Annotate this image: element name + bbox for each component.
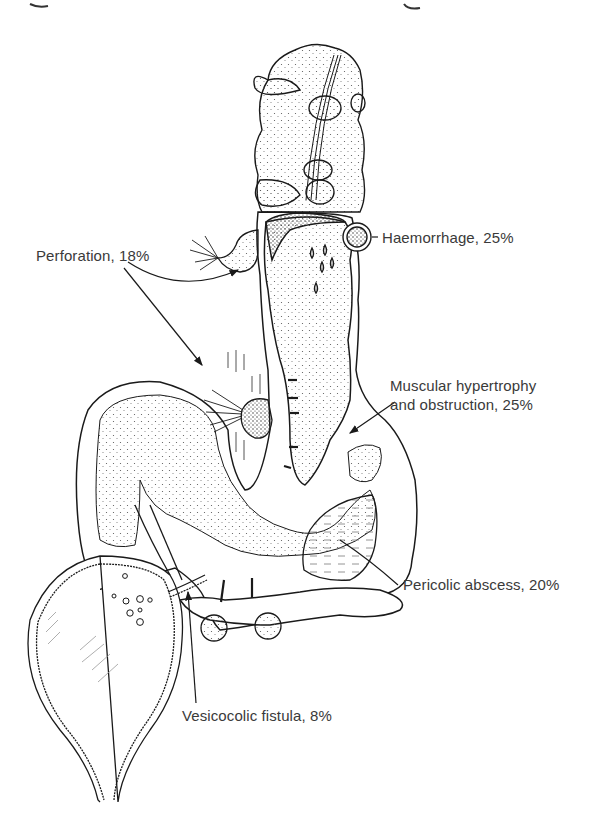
label-vesicocolic-fistula: Vesicocolic fistula, 8%: [182, 706, 332, 725]
perforation-leader-lower: [124, 268, 202, 365]
top-edge-marks: [30, 4, 420, 9]
label-perforation: Perforation, 18%: [36, 246, 149, 265]
label-haemorrhage: Haemorrhage, 25%: [382, 228, 514, 247]
label-pericolic-abscess: Pericolic abscess, 20%: [403, 575, 559, 594]
label-muscular-line2: and obstruction, 25%: [390, 395, 536, 414]
upper-colon-segment: [254, 44, 365, 212]
label-muscular-line1: Muscular hypertrophy: [390, 376, 536, 395]
label-muscular-hypertrophy: Muscular hypertrophy and obstruction, 25…: [390, 376, 536, 414]
